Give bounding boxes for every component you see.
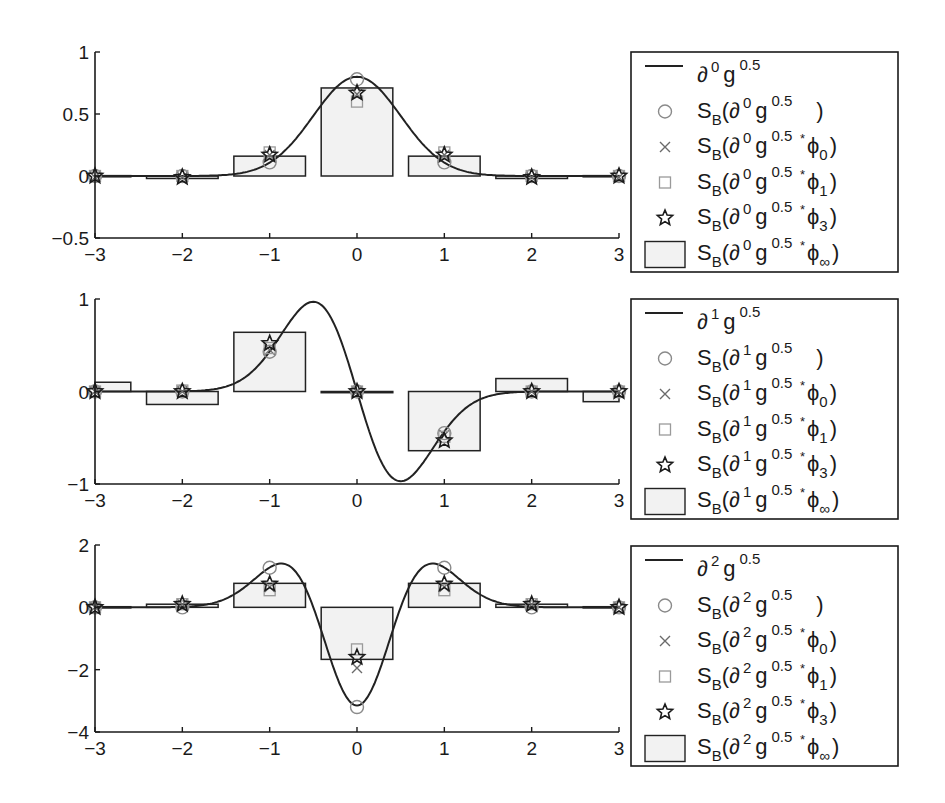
x-tick-label: −2 [171,244,193,265]
x-tick-label: 0 [352,738,363,759]
x-tick-label: −3 [84,490,106,511]
x-tick-label: 2 [526,738,537,759]
legend: ∂0g0.5SB(∂0g0.5)SB(∂0g0.5 *ϕ0)SB(∂0g0.5 … [631,52,898,272]
panel-derivative-1: −101−3−2−10123∂1g0.5SB(∂1g0.5)SB(∂1g0.5 … [67,289,898,519]
y-tick-label: 1 [78,42,89,63]
data-point-x-marker [352,663,362,673]
legend: ∂2g0.5SB(∂2g0.5)SB(∂2g0.5 *ϕ0)SB(∂2g0.5 … [631,546,898,766]
x-tick-label: −2 [171,738,193,759]
x-tick-label: −3 [84,738,106,759]
x-tick-label: −1 [259,738,281,759]
x-tick-label: −2 [171,490,193,511]
legend-bar-icon [645,489,685,515]
panel-derivative-2: −4−202−3−2−10123∂2g0.5SB(∂2g0.5)SB(∂2g0.… [67,535,898,766]
bar [321,88,393,176]
x-tick-label: −3 [84,244,106,265]
figure: −0.500.51−3−2−10123∂0g0.5SB(∂0g0.5)SB(∂0… [0,0,945,803]
x-tick-label: 3 [614,490,625,511]
y-tick-label: −2 [67,660,89,681]
x-tick-label: 3 [614,244,625,265]
y-tick-label: 0 [78,166,89,187]
legend-bar-icon [645,242,685,268]
x-tick-label: 2 [526,490,537,511]
y-tick-label: 0 [78,597,89,618]
x-tick-label: 2 [526,244,537,265]
y-tick-label: 0 [78,382,89,403]
x-tick-label: 1 [439,738,450,759]
y-tick-label: 2 [78,535,89,556]
x-tick-label: −1 [259,244,281,265]
x-tick-label: 3 [614,738,625,759]
x-tick-label: 0 [352,490,363,511]
x-tick-label: 1 [439,244,450,265]
bar [321,607,393,659]
bar [234,332,306,391]
x-tick-label: −1 [259,490,281,511]
legend-bar-icon [645,736,685,762]
y-tick-label: 1 [78,289,89,310]
x-tick-label: 1 [439,490,450,511]
legend: ∂1g0.5SB(∂1g0.5)SB(∂1g0.5 *ϕ0)SB(∂1g0.5 … [631,299,898,519]
panel-derivative-0: −0.500.51−3−2−10123∂0g0.5SB(∂0g0.5)SB(∂0… [51,42,898,272]
data-point-circle-marker [351,701,364,714]
y-tick-label: 0.5 [63,104,89,125]
x-tick-label: 0 [352,244,363,265]
